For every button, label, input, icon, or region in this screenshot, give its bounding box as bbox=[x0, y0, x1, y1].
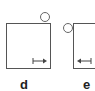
panel-d-circle bbox=[40, 12, 50, 22]
panel-d-right-arrow-icon bbox=[32, 57, 48, 65]
diagram-figure: d e bbox=[0, 0, 95, 91]
panel-e-label: e bbox=[83, 78, 90, 91]
panel-e-circle bbox=[63, 23, 73, 33]
panel-e-left-arrow-icon bbox=[77, 57, 93, 65]
panel-d-label: d bbox=[20, 78, 28, 91]
